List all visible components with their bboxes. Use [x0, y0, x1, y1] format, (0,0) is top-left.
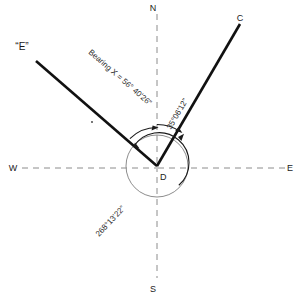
label-angle-reflex: 268°13'22” [94, 204, 127, 239]
label-east: E [287, 163, 293, 173]
label-point-c: C [237, 13, 244, 23]
label-south: S [150, 284, 156, 294]
label-north: N [150, 3, 157, 13]
bearing-diagram-canvas: N S W E C “E” D Bearing X = 56° 40'26” 3… [0, 0, 295, 296]
bearing-tick-dot [91, 121, 93, 123]
arc-bearing-x-arrowhead [152, 125, 159, 130]
label-point-e: “E” [15, 41, 28, 52]
label-west: W [9, 163, 18, 173]
label-station-d: D [160, 172, 167, 182]
label-bearing-x: Bearing X = 56° 40'26” [87, 48, 154, 108]
bearing-diagram: N S W E C “E” D Bearing X = 56° 40'26” 3… [0, 0, 295, 296]
ray-to-point-c [157, 24, 240, 166]
ray-to-point-e [36, 61, 157, 166]
